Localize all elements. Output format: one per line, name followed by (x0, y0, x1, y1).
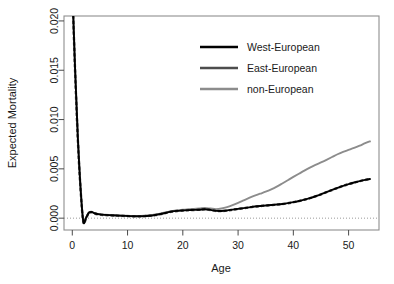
x-tick-label: 20 (177, 239, 189, 251)
x-tick-label: 30 (232, 239, 244, 251)
x-axis-title: Age (211, 262, 231, 274)
x-tick-label: 40 (287, 239, 299, 251)
y-tick-label: 0.005 (48, 156, 60, 182)
x-tick-label: 0 (69, 239, 75, 251)
x-tick-label: 10 (122, 239, 134, 251)
x-tick-label: 50 (343, 239, 355, 251)
y-axis-title: Expected Mortality (6, 77, 18, 168)
chart-background (0, 0, 394, 284)
y-tick-label: 0.015 (48, 57, 60, 83)
legend-label-west-european: West-European (247, 41, 320, 53)
chart-canvas: 01020304050 0.0000.0050.0100.0150.020 Ag… (0, 0, 394, 284)
y-tick-label: 0.000 (48, 205, 60, 231)
expected-mortality-chart: 01020304050 0.0000.0050.0100.0150.020 Ag… (0, 0, 394, 284)
y-tick-label: 0.020 (48, 8, 60, 34)
legend-label-non-european: non-European (247, 83, 314, 95)
y-tick-label: 0.010 (48, 106, 60, 132)
legend-label-east-european: East-European (247, 62, 317, 74)
